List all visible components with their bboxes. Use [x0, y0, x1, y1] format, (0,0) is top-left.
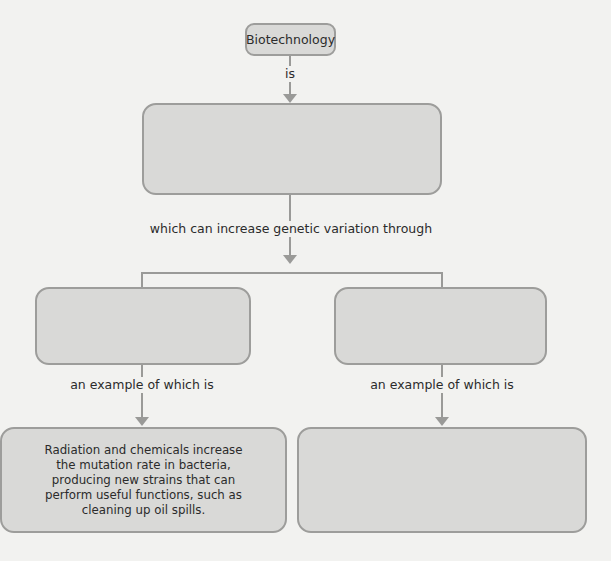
branch-drop-right: [441, 272, 443, 288]
example-right-box[interactable]: [297, 427, 587, 533]
arrow-down-icon: [283, 255, 297, 264]
root-concept-label: Biotechnology: [246, 32, 335, 47]
example-left-text: Radiation and chemicals increase the mut…: [24, 443, 263, 518]
link-label-variation: which can increase genetic variation thr…: [147, 221, 435, 237]
definition-box[interactable]: [142, 103, 442, 195]
branch-drop-left: [141, 272, 143, 288]
arrow-down-icon: [135, 417, 149, 426]
branch-line: [141, 272, 443, 274]
arrow-down-icon: [283, 94, 297, 103]
method-right-box[interactable]: [334, 287, 547, 365]
link-label-is: is: [282, 66, 298, 82]
root-concept-box: Biotechnology: [245, 23, 336, 56]
arrow-down-icon: [435, 417, 449, 426]
link-label-example-right: an example of which is: [367, 377, 517, 393]
example-left-box[interactable]: Radiation and chemicals increase the mut…: [0, 427, 287, 533]
method-left-box[interactable]: [35, 287, 251, 365]
link-label-example-left: an example of which is: [67, 377, 217, 393]
